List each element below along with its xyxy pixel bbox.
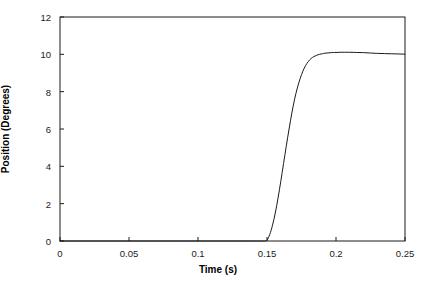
y-tick-label: 12: [0, 12, 51, 23]
y-axis-ticks: [60, 17, 64, 241]
y-tick-label: 0: [0, 236, 51, 247]
chart-container: 00.050.10.150.20.25 024681012 Time (s) P…: [0, 0, 436, 291]
y-axis-title: Position (Degrees): [0, 85, 11, 173]
x-tick-label: 0.1: [191, 248, 204, 259]
x-tick-label: 0.2: [329, 248, 342, 259]
plot-area: [0, 0, 436, 291]
x-tick-label: 0.25: [396, 248, 415, 259]
plot-frame: [60, 17, 405, 241]
x-tick-label: 0.15: [258, 248, 277, 259]
x-tick-label: 0.05: [120, 248, 139, 259]
x-axis-ticks: [60, 237, 405, 241]
x-tick-label: 0: [57, 248, 62, 259]
data-series-line: [60, 52, 405, 241]
y-tick-label: 2: [0, 198, 51, 209]
x-axis-title: Time (s): [0, 264, 436, 275]
y-tick-label: 10: [0, 49, 51, 60]
